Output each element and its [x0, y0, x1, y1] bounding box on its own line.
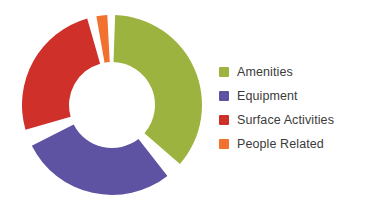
- legend-swatch-people-related: [219, 139, 229, 149]
- legend-label-equipment: Equipment: [237, 89, 298, 103]
- legend-item-surface-activities[interactable]: Surface Activities: [219, 110, 387, 129]
- legend-item-amenities[interactable]: Amenities: [219, 62, 387, 81]
- legend-label-amenities: Amenities: [237, 65, 293, 79]
- legend-swatch-amenities: [219, 67, 229, 77]
- chart-legend: Amenities Equipment Surface Activities P…: [219, 62, 387, 153]
- donut-chart-svg: [14, 7, 210, 203]
- legend-label-surface-activities: Surface Activities: [237, 113, 334, 127]
- legend-swatch-surface-activities: [219, 115, 229, 125]
- legend-label-people-related: People Related: [237, 137, 324, 151]
- donut-slice-surface-activities[interactable]: [22, 18, 100, 129]
- donut-chart-figure: Amenities Equipment Surface Activities P…: [0, 0, 391, 215]
- donut-chart: [14, 7, 210, 203]
- legend-item-people-related[interactable]: People Related: [219, 134, 387, 153]
- legend-item-equipment[interactable]: Equipment: [219, 86, 387, 105]
- legend-swatch-equipment: [219, 91, 229, 101]
- donut-slices-group: [22, 15, 202, 195]
- donut-slice-people-related[interactable]: [96, 15, 109, 63]
- donut-slice-amenities[interactable]: [114, 15, 203, 164]
